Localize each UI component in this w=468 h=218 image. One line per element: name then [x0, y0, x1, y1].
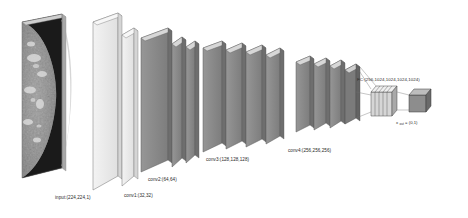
conv4-group — [296, 56, 360, 132]
conv2-slab-3 — [186, 41, 199, 163]
conv2-label: conv2:(64,64) — [148, 177, 177, 182]
conv2-slab-2 — [172, 37, 186, 167]
input-slab-side-edge — [62, 14, 66, 171]
conv1-group — [93, 13, 138, 190]
conv2-slab-1 — [141, 28, 172, 172]
fc-block — [371, 86, 397, 116]
output-label-value: = (0,1) — [405, 120, 418, 125]
conv4-slab-4 — [345, 64, 360, 124]
conv3-label: conv3:(128,128,128) — [206, 157, 250, 162]
conv4-label: conv4:(256,256,256) — [288, 148, 332, 153]
cnn-architecture-diagram: input:(224,224,1) conv1:(32,32) conv2:(6… — [0, 0, 468, 218]
input-layer-group — [20, 12, 71, 180]
conv1-slab-1 — [93, 13, 122, 190]
conv4-slab-3 — [330, 60, 345, 128]
conv2-group — [141, 28, 199, 172]
diagram-canvas: input:(224,224,1) conv1:(32,32) conv2:(6… — [0, 0, 468, 218]
conv1-slab-2 — [122, 28, 138, 186]
fc-label: FC:(256,1024,1024,1024,1024) — [357, 77, 420, 82]
output-label-subscript: out — [400, 122, 405, 126]
input-label: input:(224,224,1) — [55, 195, 91, 200]
output-label-group: x out = (0,1) — [396, 120, 418, 126]
conv3-slab-2 — [226, 43, 246, 149]
conv4-slab-2 — [314, 58, 330, 130]
output-block — [409, 89, 431, 112]
conv3-slab-4 — [266, 48, 284, 144]
conv1-label: conv1:(32,32) — [124, 193, 153, 198]
conv4-slab-1 — [296, 56, 314, 132]
conv3-group — [203, 41, 284, 152]
conv3-slab-1 — [203, 41, 226, 152]
conv3-slab-3 — [246, 45, 266, 147]
output-connector-lines — [397, 92, 409, 110]
